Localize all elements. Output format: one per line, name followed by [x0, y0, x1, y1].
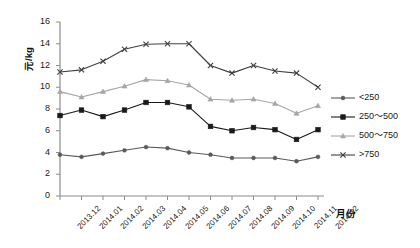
y-tick-label: 8	[32, 103, 50, 113]
legend-swatch-icon	[330, 112, 356, 122]
y-tick-label: 10	[32, 81, 50, 91]
legend-item[interactable]: 250～500	[330, 107, 420, 126]
y-tick-label: 16	[32, 16, 50, 26]
y-tick-label: 6	[32, 125, 50, 135]
legend-swatch-icon	[330, 150, 356, 160]
legend-label: <250	[359, 93, 379, 102]
y-tick-label: 12	[32, 60, 50, 70]
legend-label: 500～750	[359, 131, 398, 140]
line-chart: 元/kg 月份 0246810121416 2013.122014.012014…	[0, 0, 420, 248]
series-2	[58, 77, 321, 115]
chart-legend: <250250～500500～750>750	[330, 88, 420, 164]
y-tick-label: 14	[32, 38, 50, 48]
legend-item[interactable]: <250	[330, 88, 420, 107]
legend-item[interactable]: >750	[330, 145, 420, 164]
legend-swatch-icon	[330, 93, 356, 103]
y-tick-label: 0	[32, 190, 50, 200]
legend-swatch-icon	[330, 131, 356, 141]
series-0	[58, 145, 320, 163]
legend-label: 250～500	[359, 112, 398, 121]
y-tick-label: 2	[32, 168, 50, 178]
legend-item[interactable]: 500～750	[330, 126, 420, 145]
legend-label: >750	[359, 150, 379, 159]
y-tick-label: 4	[32, 147, 50, 157]
